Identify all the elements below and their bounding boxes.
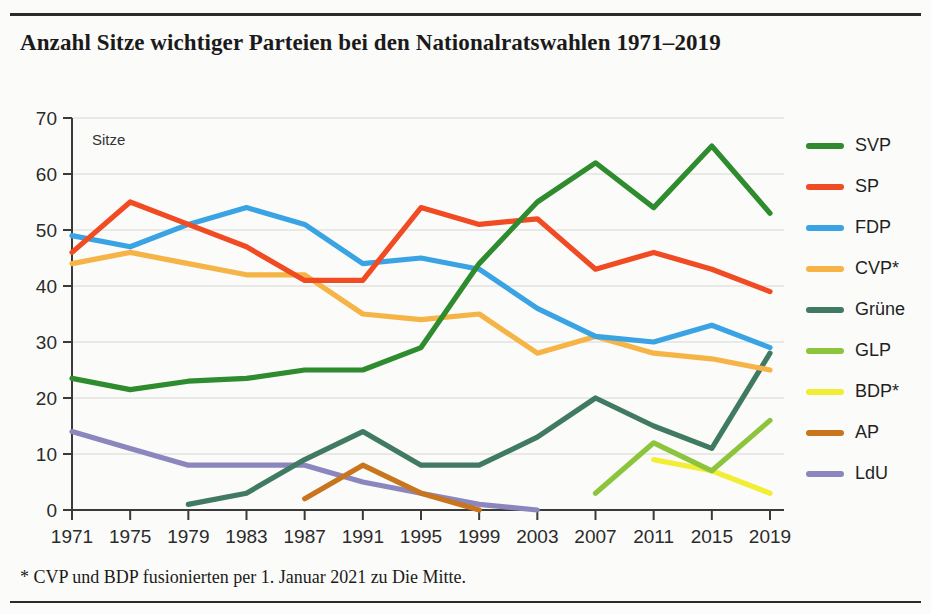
x-tick-label: 1995	[400, 526, 442, 547]
chart-page: Anzahl Sitze wichtiger Parteien bei den …	[0, 0, 931, 614]
series-line-cvp	[72, 252, 770, 370]
y-tick-label: 50	[36, 220, 57, 241]
legend-color-swatch	[806, 348, 844, 354]
x-tick-label: 1987	[284, 526, 326, 547]
legend-item-svp[interactable]: SVP	[806, 125, 926, 166]
legend-item-glp[interactable]: GLP	[806, 330, 926, 371]
legend-label: SP	[855, 176, 879, 197]
plot-area: 0102030405060701971197519791983198719911…	[0, 0, 931, 560]
series-line-bdp	[654, 460, 770, 494]
x-tick-label: 1983	[225, 526, 267, 547]
legend-item-fdp[interactable]: FDP	[806, 207, 926, 248]
legend-label: LdU	[855, 463, 888, 484]
legend-color-swatch	[806, 225, 844, 231]
chart-legend: SVPSPFDPCVP*GrüneGLPBDP*APLdU	[806, 125, 926, 494]
legend-item-ldu[interactable]: LdU	[806, 453, 926, 494]
legend-item-grüne[interactable]: Grüne	[806, 289, 926, 330]
x-tick-label: 1999	[458, 526, 500, 547]
x-tick-label: 2015	[691, 526, 733, 547]
legend-label: CVP*	[855, 258, 899, 279]
x-tick-label: 1975	[109, 526, 151, 547]
y-tick-label: 40	[36, 276, 57, 297]
legend-label: SVP	[855, 135, 891, 156]
x-tick-label: 2007	[574, 526, 616, 547]
bottom-divider	[10, 601, 921, 603]
legend-item-cvp[interactable]: CVP*	[806, 248, 926, 289]
legend-label: FDP	[855, 217, 891, 238]
legend-item-bdp[interactable]: BDP*	[806, 371, 926, 412]
x-tick-label: 2003	[516, 526, 558, 547]
legend-label: AP	[855, 422, 879, 443]
y-tick-label: 0	[46, 500, 57, 521]
x-tick-label: 2011	[633, 526, 674, 547]
legend-color-swatch	[806, 143, 844, 149]
legend-color-swatch	[806, 430, 844, 436]
series-line-fdp	[72, 208, 770, 348]
legend-color-swatch	[806, 307, 844, 313]
series-line-sp	[72, 202, 770, 292]
y-tick-label: 10	[36, 444, 57, 465]
x-tick-label: 1979	[167, 526, 209, 547]
legend-color-swatch	[806, 471, 844, 477]
legend-item-ap[interactable]: AP	[806, 412, 926, 453]
footnote: * CVP und BDP fusionierten per 1. Januar…	[20, 567, 466, 588]
legend-label: Grüne	[855, 299, 905, 320]
x-tick-label: 2019	[749, 526, 791, 547]
y-tick-label: 70	[36, 108, 57, 129]
y-tick-label: 20	[36, 388, 57, 409]
y-tick-label: 30	[36, 332, 57, 353]
legend-label: GLP	[855, 340, 891, 361]
line-chart-svg: 0102030405060701971197519791983198719911…	[0, 0, 931, 560]
y-tick-label: 60	[36, 164, 57, 185]
legend-label: BDP*	[855, 381, 899, 402]
y-axis-caption: Sitze	[92, 131, 125, 148]
x-tick-label: 1991	[342, 526, 384, 547]
legend-color-swatch	[806, 184, 844, 190]
legend-color-swatch	[806, 266, 844, 272]
x-tick-label: 1971	[51, 526, 93, 547]
legend-color-swatch	[806, 389, 844, 395]
legend-item-sp[interactable]: SP	[806, 166, 926, 207]
